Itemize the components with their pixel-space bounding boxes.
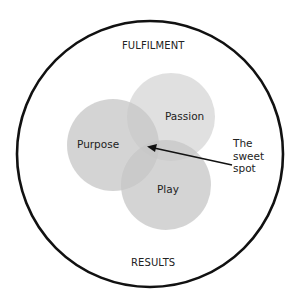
annotation-line-3: spot [233,162,264,175]
annotation-line-2: sweet [233,150,264,163]
sweet-spot-annotation: The sweet spot [233,137,264,175]
annotation-line-1: The [233,137,264,150]
fulfilment-label: FULFILMENT [122,40,184,51]
results-label: RESULTS [131,257,175,268]
passion-label: Passion [165,110,204,122]
purpose-label: Purpose [77,138,119,150]
play-label: Play [157,183,179,195]
